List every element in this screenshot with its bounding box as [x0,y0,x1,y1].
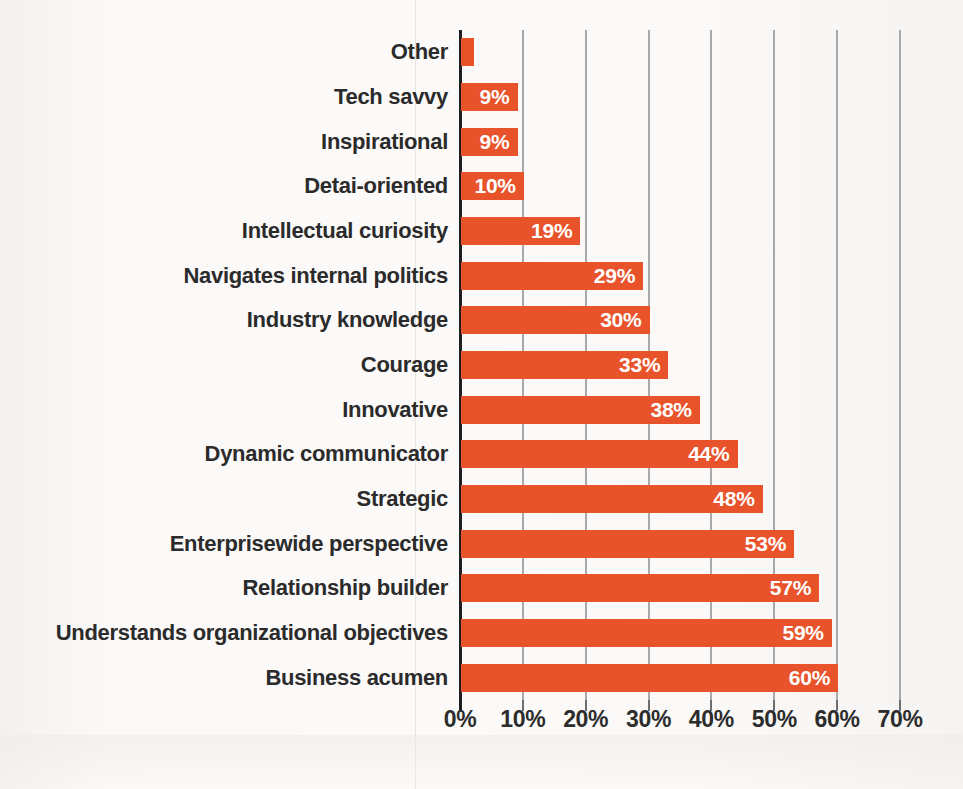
bar-value-label: 38% [650,398,699,422]
category-label: Courage [361,352,448,378]
chart-row: Navigates internal politics29% [0,253,963,298]
category-label: Intellectual curiosity [242,218,448,244]
x-tick-label-20: 20% [563,706,608,733]
horizontal-bar-chart: OtherTech savvy9%Inspirational9%Detai-or… [0,0,963,789]
bar-value-label: 10% [474,174,523,198]
chart-row: Detai-oriented10% [0,164,963,209]
chart-row: Other [0,30,963,75]
category-label: Inspirational [321,129,448,155]
x-tick-label-10: 10% [500,706,545,733]
chart-row: Relationship builder57% [0,566,963,611]
x-tick-label-50: 50% [752,706,797,733]
bar[interactable]: 44% [461,440,738,468]
category-label: Strategic [357,486,448,512]
bar[interactable]: 48% [461,485,763,513]
bar-value-label: 19% [531,219,580,243]
bar-value-label: 48% [713,487,762,511]
chart-bar-rows: OtherTech savvy9%Inspirational9%Detai-or… [0,0,963,700]
bar-value-label: 44% [688,442,737,466]
chart-row: Understands organizational objectives59% [0,611,963,656]
chart-row: Enterprisewide perspective53% [0,521,963,566]
x-tick-label-30: 30% [626,706,671,733]
chart-row: Courage33% [0,343,963,388]
bar[interactable]: 19% [461,217,580,245]
chart-row: Business acumen60% [0,655,963,700]
chart-row: Tech savvy9% [0,75,963,120]
bar[interactable]: 53% [461,530,794,558]
bar-value-label: 59% [782,621,831,645]
bar-value-label: 60% [789,666,838,690]
chart-row: Innovative38% [0,387,963,432]
bar[interactable]: 9% [461,128,518,156]
bar[interactable]: 38% [461,396,700,424]
bar-value-label: 30% [600,308,649,332]
category-label: Innovative [342,397,448,423]
x-tick-label-0: 0% [444,706,477,733]
bar-value-label: 33% [619,353,668,377]
chart-row: Industry knowledge30% [0,298,963,343]
bar[interactable]: 29% [461,262,643,290]
category-label: Navigates internal politics [183,263,448,289]
bar-value-label: 57% [770,576,819,600]
bar[interactable]: 60% [461,664,838,692]
category-label: Understands organizational objectives [56,620,448,646]
x-tick-label-60: 60% [815,706,860,733]
bar[interactable]: 33% [461,351,668,379]
bar[interactable]: 57% [461,574,819,602]
chart-row: Dynamic communicator44% [0,432,963,477]
chart-row: Strategic48% [0,477,963,522]
category-label: Detai-oriented [304,173,448,199]
bar[interactable]: 10% [461,172,524,200]
bar[interactable] [461,38,474,66]
bar-value-label: 9% [480,85,518,109]
category-label: Enterprisewide perspective [170,531,448,557]
chart-row: Inspirational9% [0,119,963,164]
bar-value-label: 29% [594,264,643,288]
bar[interactable]: 30% [461,306,650,334]
category-label: Relationship builder [243,575,448,601]
bar[interactable]: 9% [461,83,518,111]
category-label: Business acumen [265,665,448,691]
category-label: Dynamic communicator [205,441,448,467]
category-label: Other [391,39,448,65]
bar-value-label: 53% [745,532,794,556]
bar-value-label: 9% [480,130,518,154]
category-label: Tech savvy [334,84,448,110]
chart-row: Intellectual curiosity19% [0,209,963,254]
x-tick-label-70: 70% [877,706,922,733]
bar[interactable]: 59% [461,619,832,647]
category-label: Industry knowledge [247,307,448,333]
x-tick-label-40: 40% [689,706,734,733]
